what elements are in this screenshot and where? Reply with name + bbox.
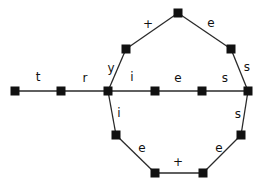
edge-n13-n6 (241, 91, 248, 135)
node-n1 (11, 87, 20, 96)
edges-layer (15, 13, 248, 173)
edge-label: + (173, 155, 183, 169)
edge-n10-n11 (116, 135, 155, 173)
node-n12 (199, 169, 208, 178)
edge-label: i (130, 70, 133, 84)
edge-label: s (222, 71, 228, 85)
edge-label: y (107, 61, 114, 75)
node-n4 (151, 87, 160, 96)
edge-n8-n9 (178, 13, 231, 49)
edge-label: + (143, 17, 153, 31)
node-n8 (174, 9, 183, 18)
edge-label: e (138, 141, 145, 155)
node-n10 (112, 131, 121, 140)
edge-label: r (83, 71, 88, 85)
node-n6 (244, 87, 253, 96)
edge-label: e (174, 71, 181, 85)
edge-label: i (117, 106, 120, 120)
diagram-canvas: try+esiesie+es (0, 0, 261, 190)
edge-label: e (215, 141, 222, 155)
node-n3 (104, 87, 113, 96)
node-n11 (151, 169, 160, 178)
node-n5 (198, 87, 207, 96)
edge-label: e (207, 16, 214, 30)
node-n7 (122, 45, 131, 54)
edge-labels-layer: try+esiesie+es (36, 16, 250, 169)
node-n9 (227, 45, 236, 54)
node-n13 (237, 131, 246, 140)
node-n2 (57, 87, 66, 96)
edge-label: t (36, 70, 41, 84)
edge-label: s (244, 60, 250, 74)
edge-label: s (235, 107, 241, 121)
edge-n3-n10 (108, 91, 116, 135)
